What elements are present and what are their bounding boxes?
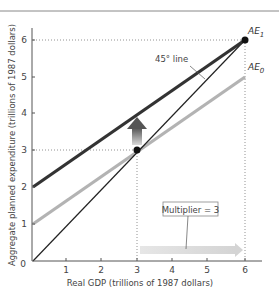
ae-multiplier-chart: 1 2 3 4 5 6 0 1 2 3 4 5 6 Real GDP (tril…	[0, 0, 279, 291]
x-tick-label: 5	[204, 265, 210, 275]
y-axis-label: Aggregate planned expenditure (trillions…	[7, 24, 17, 266]
multiplier-arrow	[140, 243, 243, 257]
origin-label: 0	[20, 259, 26, 269]
x-tick-label: 2	[98, 265, 104, 275]
equilibrium-point-ae1	[242, 37, 249, 44]
y-tick-label: 2	[21, 182, 27, 192]
x-tick-label: 4	[169, 265, 175, 275]
y-tick-label: 3	[21, 145, 27, 155]
ae0-label: AE0	[247, 62, 265, 75]
y-tick-label: 1	[21, 219, 27, 229]
multiplier-annotation: Multiplier = 3	[162, 202, 220, 249]
y-tick-label: 5	[21, 72, 27, 82]
svg-text:Multiplier = 3: Multiplier = 3	[162, 205, 220, 215]
x-tick-label: 1	[63, 265, 69, 275]
ae1-label: AE1	[247, 26, 264, 39]
line-45-label: 45° line	[155, 54, 188, 64]
x-axis-label: Real GDP (trillions of 1987 dollars)	[67, 278, 213, 288]
x-tick-label: 3	[134, 265, 140, 275]
equilibrium-point-ae0	[134, 147, 141, 154]
y-tick-label: 4	[21, 108, 27, 118]
ae1-line	[33, 40, 245, 187]
x-tick-label: 6	[242, 265, 248, 275]
y-tick-label: 6	[21, 35, 27, 45]
